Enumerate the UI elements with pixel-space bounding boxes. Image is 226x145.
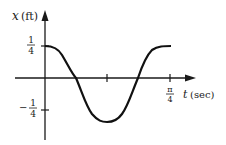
y-axis-arrow-icon	[42, 10, 49, 21]
y-tick-bottom-sign: −	[19, 102, 27, 113]
cosine-curve	[45, 46, 171, 122]
y-axis-label-unit: (ft)	[21, 10, 38, 23]
y-tick-bottom-denominator: 4	[30, 109, 36, 119]
x-axis-label-var: t	[183, 88, 188, 101]
x-tick-pi4-numerator: π	[167, 85, 172, 94]
y-tick-top-numerator: 1	[28, 35, 34, 45]
y-tick-top-denominator: 4	[28, 46, 34, 56]
cosine-chart: x (ft) 1 4 − 1 4 π 4 t (sec)	[0, 0, 226, 145]
x-axis-arrow-icon	[185, 75, 196, 82]
x-axis-label-unit: (sec)	[190, 89, 215, 100]
y-axis-label-var: x	[12, 9, 19, 23]
x-tick-pi4-denominator: 4	[167, 95, 172, 104]
y-tick-bottom-numerator: 1	[30, 98, 36, 108]
